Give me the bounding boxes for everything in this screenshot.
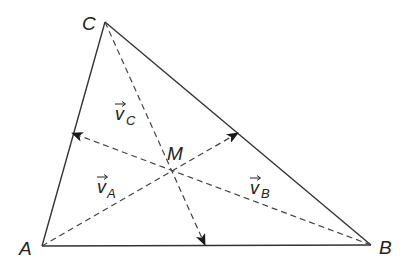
- vector-label-a-main: v: [97, 177, 107, 197]
- side-ab: [42, 245, 371, 246]
- vector-label-b-main: v: [250, 178, 260, 198]
- vector-label-b: v B: [250, 176, 270, 202]
- vertex-label-b: B: [379, 237, 392, 258]
- vector-label-a-sub: A: [106, 186, 116, 201]
- vector-label-b-sub: B: [261, 186, 270, 201]
- triangle-diagram: C A B M v C v A v B: [0, 0, 415, 268]
- vertex-label-c: C: [82, 13, 96, 34]
- vector-label-c-main: v: [115, 104, 125, 124]
- vertex-label-a: A: [18, 238, 32, 259]
- vector-c-arrow: [105, 22, 205, 245]
- vector-label-a: v A: [97, 175, 116, 202]
- side-ca: [42, 22, 105, 246]
- center-label-m: M: [167, 143, 183, 164]
- vector-a-arrow: [42, 133, 238, 246]
- vector-label-c-sub: C: [126, 113, 136, 128]
- vector-label-c: v C: [115, 102, 136, 129]
- vector-b-arrow: [72, 133, 371, 245]
- triangle: [42, 22, 371, 246]
